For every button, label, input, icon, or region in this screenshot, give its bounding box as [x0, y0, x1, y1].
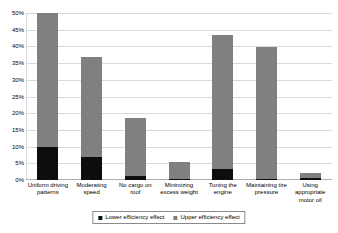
bar-stack[interactable] — [256, 47, 277, 180]
chart-legend: Lower efficiency effectUpper efficiency … — [92, 211, 245, 224]
bar-segment-lower-efficiency[interactable] — [125, 176, 146, 180]
legend-entry[interactable]: Lower efficiency effect — [98, 214, 164, 221]
x-axis-category-label: Uniform driving patterns — [26, 182, 70, 204]
bar-slot — [288, 13, 332, 180]
y-axis-tick-label: 5% — [0, 160, 24, 166]
bar-stack[interactable] — [212, 35, 233, 180]
bar-slot — [70, 13, 114, 180]
bar-stack[interactable] — [169, 162, 190, 180]
bar-segment-upper-efficiency[interactable] — [169, 162, 190, 179]
bar-segment-lower-efficiency[interactable] — [37, 147, 58, 180]
x-axis-category-label: Maintaining tire pressure — [245, 182, 289, 204]
y-axis-tick-label: 35% — [0, 60, 24, 66]
bar-segment-lower-efficiency[interactable] — [256, 179, 277, 180]
y-axis-tick-label: 20% — [0, 110, 24, 116]
bars-layer — [26, 13, 332, 180]
y-axis-tick-label: 45% — [0, 27, 24, 33]
bar-slot — [157, 13, 201, 180]
x-axis-category-label: Using appropriate motor oil — [288, 182, 332, 204]
bar-stack[interactable] — [125, 118, 146, 180]
y-axis-tick-label: 10% — [0, 144, 24, 150]
bar-segment-upper-efficiency[interactable] — [81, 57, 102, 157]
y-axis-tick-label: 50% — [0, 10, 24, 16]
stacked-bar-chart: 50%45%40%35%30%25%20%15%10%5%0% Uniform … — [0, 0, 338, 233]
bar-segment-lower-efficiency[interactable] — [212, 169, 233, 180]
bar-slot — [245, 13, 289, 180]
bar-slot — [201, 13, 245, 180]
y-axis-tick-labels: 50%45%40%35%30%25%20%15%10%5%0% — [0, 13, 24, 180]
bar-slot — [26, 13, 70, 180]
bar-segment-upper-efficiency[interactable] — [212, 35, 233, 169]
legend-label: Upper efficiency effect — [181, 214, 240, 221]
x-axis-category-label: Minimizing excess weight — [157, 182, 201, 204]
bar-segment-lower-efficiency[interactable] — [300, 178, 321, 180]
y-axis-tick-label: 15% — [0, 127, 24, 133]
bar-stack[interactable] — [37, 13, 58, 180]
legend-swatch-icon — [98, 216, 102, 220]
y-axis-tick-label: 0% — [0, 177, 24, 183]
bar-segment-upper-efficiency[interactable] — [37, 13, 58, 147]
bar-segment-upper-efficiency[interactable] — [256, 47, 277, 179]
bar-segment-upper-efficiency[interactable] — [125, 118, 146, 175]
legend-swatch-icon — [174, 216, 178, 220]
bar-slot — [113, 13, 157, 180]
legend-entry[interactable]: Upper efficiency effect — [174, 214, 240, 221]
legend-label: Lower efficiency effect — [105, 214, 164, 221]
x-axis-category-label: Tuning the engine — [201, 182, 245, 204]
bar-segment-lower-efficiency[interactable] — [169, 179, 190, 180]
bar-stack[interactable] — [300, 173, 321, 180]
y-axis-tick-label: 30% — [0, 77, 24, 83]
x-axis-category-label: Moderating speed — [70, 182, 114, 204]
x-axis-category-label: No cargo on roof — [113, 182, 157, 204]
y-axis-tick-label: 40% — [0, 43, 24, 49]
bar-stack[interactable] — [81, 57, 102, 180]
x-axis-category-labels: Uniform driving patternsModerating speed… — [26, 182, 332, 204]
bar-segment-lower-efficiency[interactable] — [81, 157, 102, 180]
y-axis-tick-label: 25% — [0, 94, 24, 100]
